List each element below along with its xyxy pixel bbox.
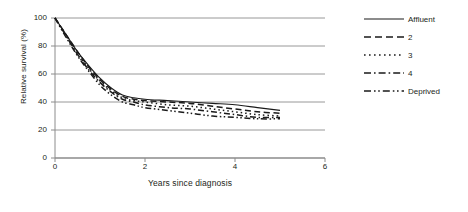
legend-label: 3	[405, 51, 412, 60]
legend-label: 2	[405, 33, 412, 42]
legend-label: 4	[405, 69, 412, 78]
relative-survival-chart: Relative survival (%) 100 80 60 40 20 0 …	[0, 0, 468, 212]
data-series-group	[55, 18, 280, 119]
y-tick-marks	[51, 18, 55, 158]
x-tick-marks	[55, 158, 325, 162]
legend-swatch-4	[363, 68, 405, 78]
legend-swatch-3	[363, 50, 405, 60]
legend-swatch-affluent	[363, 14, 405, 24]
legend-label: Affluent	[405, 15, 435, 24]
legend-label: Deprived	[405, 87, 440, 96]
legend-item[interactable]: 4	[363, 64, 468, 82]
series-line-deprived	[55, 18, 280, 119]
gridlines	[55, 18, 325, 158]
legend-item[interactable]: Deprived	[363, 82, 468, 100]
legend: Affluent 2 3 4 Deprived	[363, 10, 468, 100]
legend-item[interactable]: Affluent	[363, 10, 468, 28]
series-line-affluent	[55, 18, 280, 110]
legend-item[interactable]: 2	[363, 28, 468, 46]
legend-swatch-2	[363, 32, 405, 42]
legend-item[interactable]: 3	[363, 46, 468, 64]
legend-swatch-deprived	[363, 86, 405, 96]
